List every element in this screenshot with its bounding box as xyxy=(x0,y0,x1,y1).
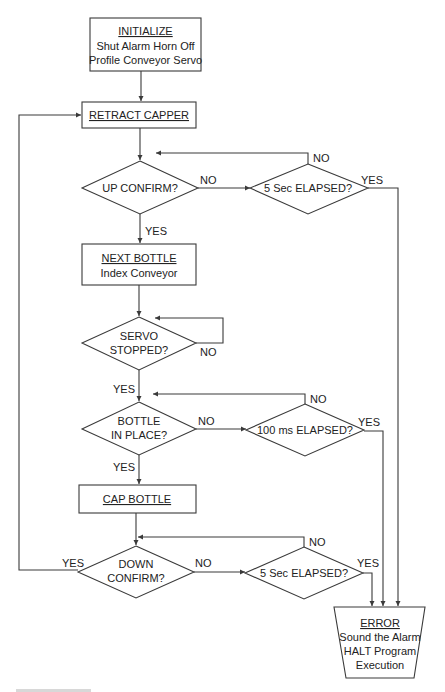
down-no-label: NO xyxy=(195,557,212,569)
bottle-no-label: NO xyxy=(198,415,215,427)
down-confirm-diamond: DOWN CONFIRM? xyxy=(78,546,194,598)
up-confirm-yes-label: YES xyxy=(145,225,167,237)
bottle-timeout-text: 100 ms ELAPSED? xyxy=(257,424,353,436)
bottle-in-place-diamond: BOTTLE IN PLACE? xyxy=(82,402,196,455)
arrow-down-timeout-yes xyxy=(363,573,372,606)
bottle-line-1: BOTTLE xyxy=(118,415,161,427)
next-bottle-title: NEXT BOTTLE xyxy=(102,252,177,264)
up-timeout-text: 5 Sec ELAPSED? xyxy=(264,182,352,194)
up-confirm-diamond: UP CONFIRM? xyxy=(82,161,198,214)
loop-down-timeout-no xyxy=(138,537,304,547)
retract-capper-title: RETRACT CAPPER xyxy=(89,109,189,121)
servo-line-1: SERVO xyxy=(120,330,159,342)
bottle-yes-label: YES xyxy=(113,461,135,473)
down-yes-label: YES xyxy=(62,557,84,569)
servo-no-label: NO xyxy=(200,346,217,358)
loop-down-yes-to-retract xyxy=(19,115,81,570)
bottle-timeout-no-label: NO xyxy=(310,393,327,405)
up-confirm-text: UP CONFIRM? xyxy=(102,182,178,194)
bottle-timeout-diamond: 100 ms ELAPSED? xyxy=(246,404,364,456)
up-timeout-yes-label: YES xyxy=(361,174,383,186)
next-bottle-box: NEXT BOTTLE Index Conveyor xyxy=(82,244,196,285)
loop-up-timeout-no xyxy=(156,153,308,164)
error-line-2: HALT Program xyxy=(344,645,416,657)
up-confirm-no-label: NO xyxy=(200,174,217,186)
error-line-3: Execution xyxy=(356,659,404,671)
down-timeout-yes-label: YES xyxy=(357,557,379,569)
initialize-line-1: Shut Alarm Horn Off xyxy=(96,40,195,52)
error-box: ERROR Sound the Alarm HALT Program Execu… xyxy=(334,607,425,678)
bottle-line-2: IN PLACE? xyxy=(111,429,167,441)
down-timeout-diamond: 5 Sec ELAPSED? xyxy=(245,547,363,599)
initialize-box: INITIALIZE Shut Alarm Horn Off Profile C… xyxy=(89,18,202,71)
cap-bottle-title: CAP BOTTLE xyxy=(103,493,171,505)
servo-yes-label: YES xyxy=(113,383,135,395)
down-line-1: DOWN xyxy=(119,558,154,570)
initialize-line-2: Profile Conveyor Servo xyxy=(89,54,202,66)
servo-stopped-diamond: SERVO STOPPED? xyxy=(82,317,196,370)
error-title: ERROR xyxy=(360,617,400,629)
flowchart: INITIALIZE Shut Alarm Horn Off Profile C… xyxy=(0,0,445,692)
down-timeout-no-label: NO xyxy=(309,536,326,548)
error-line-1: Sound the Alarm xyxy=(339,631,420,643)
down-line-2: CONFIRM? xyxy=(107,572,164,584)
next-bottle-line-1: Index Conveyor xyxy=(100,267,177,279)
down-timeout-text: 5 Sec ELAPSED? xyxy=(260,567,348,579)
retract-capper-box: RETRACT CAPPER xyxy=(82,102,196,128)
cap-bottle-box: CAP BOTTLE xyxy=(79,485,196,513)
up-timeout-diamond: 5 Sec ELAPSED? xyxy=(250,164,368,214)
arrow-bottle-timeout-yes xyxy=(364,431,383,606)
bottle-timeout-yes-label: YES xyxy=(358,416,380,428)
loop-bottle-timeout-no xyxy=(153,394,305,404)
servo-line-2: STOPPED? xyxy=(110,344,169,356)
up-timeout-no-label: NO xyxy=(313,152,330,164)
initialize-title: INITIALIZE xyxy=(118,25,172,37)
